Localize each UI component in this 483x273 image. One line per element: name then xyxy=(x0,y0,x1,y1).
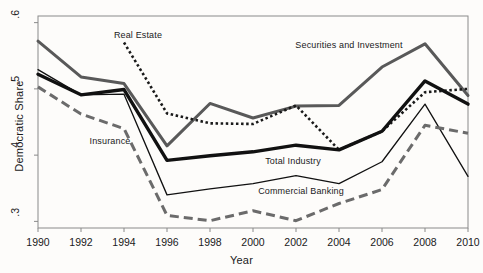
series-lines xyxy=(38,41,468,221)
series-line-real-estate xyxy=(124,43,468,150)
chart-figure: Democratic Share Year 199019921994199619… xyxy=(0,0,483,273)
x-tick-label: 1990 xyxy=(18,236,58,248)
x-tick-label: 1994 xyxy=(104,236,144,248)
x-axis-title: Year xyxy=(0,254,483,266)
x-tick-label: 1996 xyxy=(147,236,187,248)
x-tick-label: 2006 xyxy=(362,236,402,248)
x-tick-label: 2010 xyxy=(448,236,483,248)
x-tick-label: 2000 xyxy=(233,236,273,248)
series-label-total-industry: Total Industry xyxy=(265,156,321,166)
x-axis-ticks xyxy=(38,228,468,232)
series-label-securities-and-investment: Securities and Investment xyxy=(295,40,402,50)
y-tick-label: .3 xyxy=(9,208,21,230)
line-chart-canvas xyxy=(0,0,483,273)
y-axis-ticks xyxy=(34,23,38,222)
x-tick-label: 2004 xyxy=(319,236,359,248)
series-line-commercial-banking xyxy=(38,70,468,195)
x-tick-label: 1998 xyxy=(190,236,230,248)
series-label-real-estate: Real Estate xyxy=(114,30,162,40)
series-label-commercial-banking: Commercial Banking xyxy=(258,186,344,196)
x-tick-label: 1992 xyxy=(61,236,101,248)
series-label-insurance: Insurance xyxy=(90,136,131,146)
y-tick-label: .5 xyxy=(9,76,21,98)
x-tick-label: 2002 xyxy=(276,236,316,248)
y-tick-label: .6 xyxy=(9,10,21,32)
x-tick-label: 2008 xyxy=(405,236,445,248)
y-tick-label: .4 xyxy=(9,142,21,164)
